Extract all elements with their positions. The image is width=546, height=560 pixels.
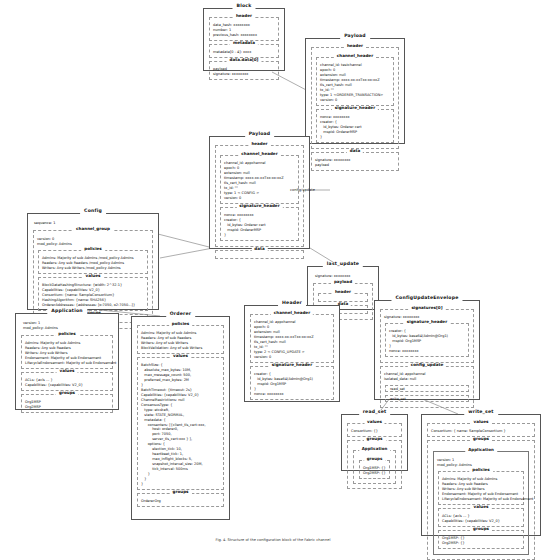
payload-top-header-section: header channel_header channel_id: testch… bbox=[311, 47, 399, 149]
payload-mid-box[interactable]: Payload header channel_header channel_id… bbox=[209, 136, 310, 249]
application-policies-title: policies bbox=[55, 332, 79, 336]
header-box[interactable]: Header channel_header channel_id: appcha… bbox=[244, 305, 340, 402]
write-set-application-policies-section: policies Admins: Majority of sub AdminsR… bbox=[438, 471, 524, 505]
read-set-box[interactable]: read_set values Consortium: {} groups Ap… bbox=[341, 414, 408, 471]
write-set-application-values-rows: ACLs: {acls ... }Capabilities: {capabili… bbox=[442, 514, 520, 524]
orderer-box[interactable]: Orderer policies Admins: Majority of sub… bbox=[131, 316, 230, 520]
write-set-title: write_set bbox=[464, 410, 498, 415]
payload-top-signature-header-title: signature_header bbox=[332, 106, 378, 110]
row-line: } bbox=[141, 482, 220, 487]
payload-mid-signature-header-title: signature_header bbox=[236, 204, 282, 208]
application-values-rows: ACLs: {acls ... }Capabilities: {capabili… bbox=[25, 378, 109, 388]
config-update-envelope-box[interactable]: ConfigUpdateEnvelope signatures[0] signa… bbox=[374, 300, 480, 400]
orderer-groups-section: groups OrdererOrg bbox=[137, 493, 224, 507]
signatures-title: signatures[0] bbox=[408, 306, 445, 310]
application-values-section: values ACLs: {acls ... }Capabilities: {c… bbox=[21, 372, 113, 391]
application-policies-section: policies Admins: Majority of sub AdminsR… bbox=[21, 335, 113, 369]
write-set-values-title: values bbox=[471, 420, 492, 424]
block-header-rows: data_hash: xxxxxxxxnumber: 1previous_has… bbox=[213, 23, 275, 38]
payload-mid-channel-header-title: channel_header bbox=[238, 152, 280, 156]
payload-top-box[interactable]: Payload header channel_header channel_id… bbox=[305, 38, 405, 144]
payload-mid-signature-header-rows: nonce: xxxxxxxxcreator: { id_bytes: Orde… bbox=[224, 213, 295, 238]
block-metadata-title: metadata bbox=[230, 41, 258, 45]
config-update-rows: channel_id: appchannelisolated_data: nul… bbox=[384, 372, 470, 382]
write-set-ref-label: write_set bbox=[389, 397, 465, 402]
row-line: Org2MSP: {} bbox=[363, 471, 386, 476]
row-line: BlockValidation: Any of sub Writers bbox=[141, 346, 220, 351]
header-channel-header-section: channel_header channel_id: appchannelepo… bbox=[250, 314, 334, 363]
channel-group-values-title: values bbox=[83, 274, 104, 278]
channel-group-values-rows: BlockDataHashingStructure: {width: 2^32-… bbox=[42, 283, 144, 308]
row-line: nonce: xxxxxxxx bbox=[389, 349, 465, 354]
application-groups-rows: Org1MSPOrg2MSP bbox=[25, 400, 109, 410]
row-line: isolated_data: null bbox=[384, 377, 470, 382]
row-line: Consortium: { name: SampleConsortium } bbox=[431, 429, 531, 434]
block-metadata-rows: metadata[0 - 4]: xxxx bbox=[213, 50, 275, 55]
last-update-box[interactable]: last_update signature: xxxxxxxx payload … bbox=[307, 266, 379, 310]
write-set-groups-title: groups bbox=[470, 437, 492, 441]
payload-mid-header-title: header bbox=[248, 142, 270, 146]
channel-group-policies-title: policies bbox=[81, 247, 105, 251]
config-update-envelope-title: ConfigUpdateEnvelope bbox=[391, 296, 462, 301]
payload-mid-signature-header-section: signature_header nonce: xxxxxxxxcreator:… bbox=[220, 207, 299, 241]
row-line: OrdererAddresses: {addresses: [o:7050, o… bbox=[42, 303, 144, 308]
orderer-values-rows: BatchSize: { absolute_max_bytes: 10M, ma… bbox=[141, 363, 220, 487]
signatures-section: signatures[0] signature: xxxxxxxx signat… bbox=[380, 309, 474, 363]
row-line: Org2MSP bbox=[25, 405, 109, 410]
payload-mid-header-section: header channel_header channel_id: appcha… bbox=[215, 145, 304, 247]
header-signature-header-rows: creator: { id_bytes: base64(Admin@Org1) … bbox=[254, 372, 330, 397]
read-set-groups-title: groups bbox=[363, 437, 385, 441]
read-set-application-section: Application groups Org1MSP: {}Org2MSP: {… bbox=[353, 450, 396, 484]
signatures-signature-header-section: signature_header creator: { id_bytes: ba… bbox=[385, 323, 469, 357]
row-line: } bbox=[224, 233, 295, 238]
row-line: Capabilities: {capabilities: V2_0} bbox=[442, 519, 520, 524]
write-set-application-values-section: values ACLs: {acls ... }Capabilities: {c… bbox=[438, 508, 524, 527]
channel-group-policies-section: policies Admins: Majority of sub Admins … bbox=[38, 250, 148, 274]
write-set-application-policies-title: policies bbox=[469, 468, 493, 472]
row-line: nonce: xxxxxxxx bbox=[254, 392, 330, 397]
read-set-values-rows: Consortium: {} bbox=[351, 429, 398, 434]
row-line: payload bbox=[315, 163, 395, 168]
read-set-application-groups-section: groups Org1MSP: {}Org2MSP: {} bbox=[359, 460, 390, 479]
block-box[interactable]: Block header data_hash: xxxxxxxxnumber: … bbox=[203, 8, 285, 71]
read-set-groups-section: groups Application groups Org1MSP: {}Org… bbox=[347, 440, 402, 489]
row-line: version: 0 bbox=[254, 355, 330, 360]
application-title: Application bbox=[47, 309, 87, 314]
payload-mid-title: Payload bbox=[245, 132, 275, 137]
header-box-title: Header bbox=[278, 301, 306, 306]
signatures-signature-header-title: signature_header bbox=[404, 320, 450, 324]
block-header-section: header data_hash: xxxxxxxxnumber: 1previ… bbox=[209, 17, 279, 41]
write-set-application-values-title: values bbox=[471, 505, 492, 509]
edge-label-config-update: config/update bbox=[290, 188, 315, 192]
orderer-groups-title: groups bbox=[169, 490, 191, 494]
config-box[interactable]: Config sequence: 1 channel_group version… bbox=[27, 213, 159, 310]
last-update-payload-title: payload bbox=[331, 280, 355, 284]
write-set-values-section: values Consortium: { name: SampleConsort… bbox=[427, 423, 535, 437]
row-line: version: 0 bbox=[320, 98, 390, 103]
row-line: Writers: Any sub Writers /mod_policy Adm… bbox=[42, 266, 144, 271]
last-update-title: last_update bbox=[323, 262, 363, 267]
write-set-application-policies-rows: Admins: Majority of sub AdminsReaders: A… bbox=[442, 477, 520, 502]
write-set-application-title: Application bbox=[465, 448, 497, 452]
write-set-box[interactable]: write_set values Consortium: { name: Sam… bbox=[421, 414, 541, 536]
channel-group-title: channel_group bbox=[73, 227, 113, 231]
orderer-values-section: values BatchSize: { absolute_max_bytes: … bbox=[137, 357, 224, 490]
config-update-write-set-ref[interactable]: write_set bbox=[385, 395, 469, 402]
row-line: previous_hash: xxxxxxxx bbox=[213, 33, 275, 38]
application-box[interactable]: Application version: 1mod_policy: Admins… bbox=[15, 313, 119, 410]
payload-mid-channel-header-rows: channel_id: appchannelepoch: 0extension:… bbox=[224, 161, 295, 201]
row-line: OrdererOrg bbox=[141, 499, 220, 504]
config-update-read-set-ref[interactable]: read_set bbox=[385, 385, 469, 392]
header-channel-header-title: channel_header bbox=[271, 311, 313, 315]
payload-top-title: Payload bbox=[340, 34, 370, 39]
application-policies-rows: Admins: Majority of sub AdminsReaders: A… bbox=[25, 341, 109, 366]
write-set-application-groups-title: groups bbox=[470, 527, 492, 531]
config-update-title: config_update bbox=[408, 363, 446, 367]
figure-caption: Fig. 4. Structure of the configuration b… bbox=[0, 538, 546, 542]
payload-mid-data-title: data bbox=[251, 247, 267, 251]
orderer-policies-rows: Admins: Majority of sub AdminsReaders: A… bbox=[141, 331, 220, 351]
payload-mid-channel-header-section: channel_header channel_id: appchannelepo… bbox=[220, 155, 299, 204]
orderer-title: Orderer bbox=[166, 312, 196, 317]
row-line: LifecycleEndorsement: Majority of sub En… bbox=[442, 497, 520, 502]
